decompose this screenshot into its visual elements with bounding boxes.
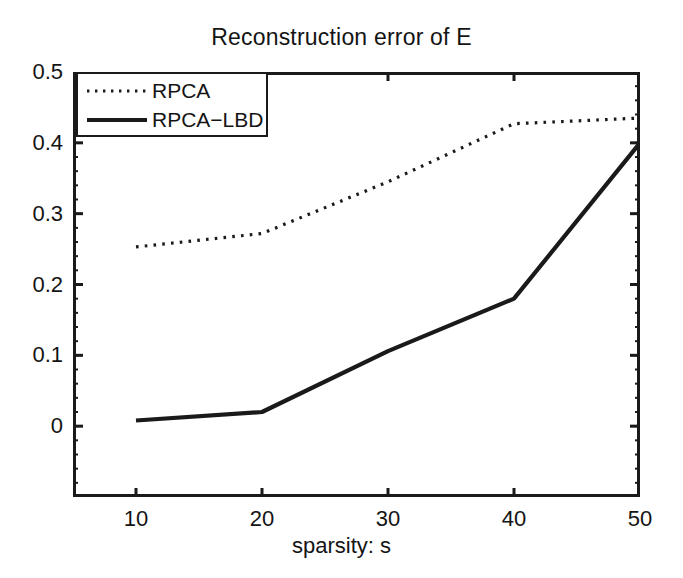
legend-dotted-line-icon <box>86 84 148 98</box>
y-tick-label: 0.1 <box>3 342 63 368</box>
legend-entry-rpca-lbd: RPCA−LBD <box>78 105 266 135</box>
x-tick-label: 40 <box>502 506 526 532</box>
data-series-layer <box>136 118 640 420</box>
y-tick-label: 0.2 <box>3 272 63 298</box>
x-tick-label: 30 <box>376 506 400 532</box>
figure-canvas: Reconstruction error of E 00.10.20.30.40… <box>0 0 683 578</box>
legend-entry-rpca: RPCA <box>78 76 266 106</box>
legend-label-rpca-lbd: RPCA−LBD <box>152 108 263 132</box>
legend-solid-line-icon <box>86 113 148 127</box>
chart-title: Reconstruction error of E <box>0 24 683 51</box>
y-tick-label: 0.5 <box>3 59 63 85</box>
chart-legend: RPCA RPCA−LBD <box>76 72 268 137</box>
y-tick-label: 0.3 <box>3 201 63 227</box>
x-tick-label: 10 <box>124 506 148 532</box>
y-tick-label: 0 <box>3 413 63 439</box>
x-tick-label: 20 <box>250 506 274 532</box>
y-tick-label: 0.4 <box>3 130 63 156</box>
x-axis-label: sparsity: s <box>0 533 683 559</box>
x-tick-label: 50 <box>628 506 652 532</box>
series-line-rpca <box>136 118 640 247</box>
legend-label-rpca: RPCA <box>152 79 210 103</box>
series-line-rpca-lbd <box>136 143 640 421</box>
